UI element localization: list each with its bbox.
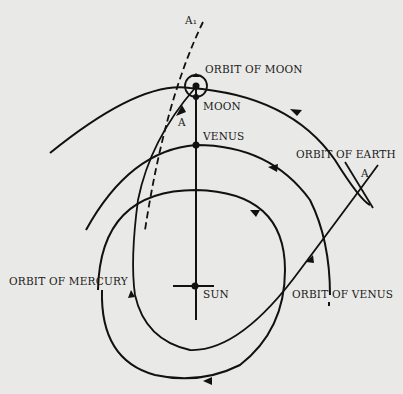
orbit-of-venus [86,145,330,295]
arrow-earth-orbit [290,109,302,116]
arrow-mercury-orbit [250,210,260,217]
label-moon: MOON [203,100,241,112]
moon-dot [193,94,199,100]
orbital-diagram: A₁ A A ORBIT OF MOON MOON VENUS ORBIT OF… [0,0,403,394]
tick-mark [328,302,330,306]
venus-dot [193,142,200,149]
label-orbit-of-venus: ORBIT OF VENUS [292,288,393,300]
sun-dot [192,283,199,290]
earth-cross-line [345,162,373,208]
label-venus: VENUS [202,130,244,142]
label-a-right: A [360,167,369,179]
label-orbit-of-earth: ORBIT OF EARTH [296,148,396,160]
earth-dot [193,83,200,90]
label-orbit-of-mercury: ORBIT OF MERCURY [9,275,129,287]
arrow-bottom [203,377,212,385]
label-a1: A₁ [184,14,197,26]
trajectory-a [133,88,378,350]
label-a-upper: A [177,116,186,128]
label-orbit-of-moon: ORBIT OF MOON [205,63,303,75]
dashed-path-a1 [145,22,203,230]
label-sun: SUN [203,288,229,300]
